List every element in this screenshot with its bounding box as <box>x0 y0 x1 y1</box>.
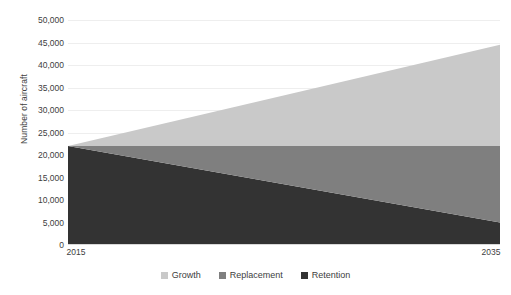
legend-label: Growth <box>172 270 201 280</box>
y-axis-tick-label: 0 <box>22 241 64 250</box>
y-axis-tick-labels: 50,00045,00040,00035,00030,00025,00020,0… <box>22 0 64 295</box>
y-axis-tick-label: 30,000 <box>22 106 64 115</box>
x-axis-tick-label: 2015 <box>67 247 86 257</box>
y-axis-tick-label: 20,000 <box>22 151 64 160</box>
legend-label: Replacement <box>230 270 283 280</box>
series-layer <box>68 20 500 245</box>
stacked-area-chart: Number of aircraft 50,00045,00040,00035,… <box>0 0 511 295</box>
y-axis-tick-label: 25,000 <box>22 128 64 137</box>
y-axis-tick-label: 15,000 <box>22 173 64 182</box>
legend-label: Retention <box>312 270 351 280</box>
legend-swatch-icon <box>161 272 168 279</box>
legend-item-retention[interactable]: Retention <box>301 270 351 280</box>
legend-item-growth[interactable]: Growth <box>161 270 201 280</box>
chart-legend: GrowthReplacementRetention <box>0 270 511 280</box>
legend-swatch-icon <box>219 272 226 279</box>
x-axis-tick-labels: 20152035 <box>68 247 500 263</box>
y-axis-tick-label: 50,000 <box>22 16 64 25</box>
y-axis-tick-label: 5,000 <box>22 218 64 227</box>
y-axis-tick-label: 35,000 <box>22 83 64 92</box>
legend-swatch-icon <box>301 272 308 279</box>
y-axis-tick-label: 10,000 <box>22 196 64 205</box>
area-series-growth <box>68 45 500 146</box>
plot-area <box>68 20 500 245</box>
y-axis-tick-label: 45,000 <box>22 38 64 47</box>
x-axis-tick-label: 2035 <box>482 247 501 257</box>
x-axis-line <box>68 244 500 245</box>
y-axis-tick-label: 40,000 <box>22 61 64 70</box>
legend-item-replacement[interactable]: Replacement <box>219 270 283 280</box>
